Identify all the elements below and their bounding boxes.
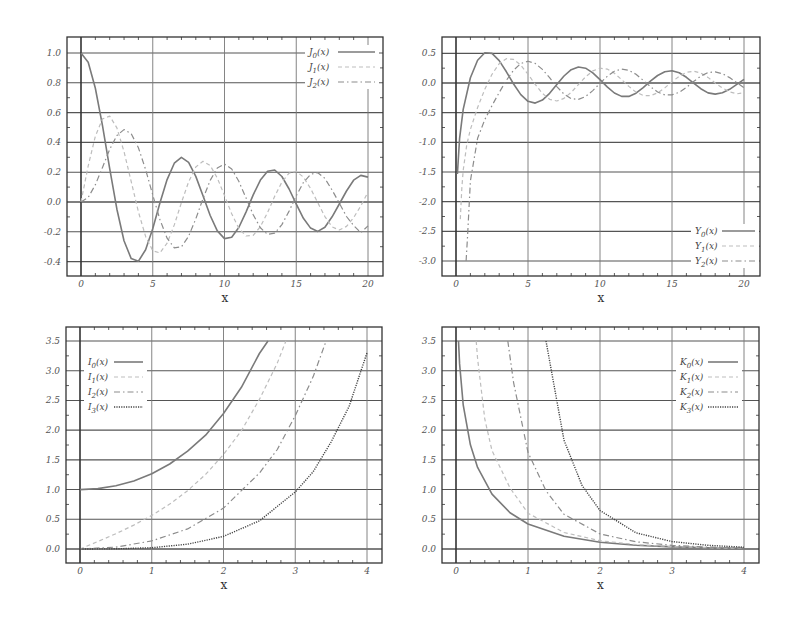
x-tick-label: 3 xyxy=(669,566,675,576)
x-axis-title: x xyxy=(221,578,228,592)
y-tick-label: 0.6 xyxy=(47,108,62,118)
x-tick-label: 4 xyxy=(363,566,370,576)
chart-bessel-j: -0.4-0.20.00.20.40.60.81.005101520J0(x)J… xyxy=(44,37,383,305)
y-tick-label: -1.5 xyxy=(419,167,437,177)
x-tick-label: 10 xyxy=(219,279,231,289)
y-tick-label: -2.5 xyxy=(419,226,437,236)
y-tick-label: 0.5 xyxy=(422,514,437,524)
x-tick-label: 15 xyxy=(666,279,678,289)
y-tick-label: 3.0 xyxy=(422,366,437,376)
y-tick-label: 2.5 xyxy=(45,395,61,405)
x-tick-label: 0 xyxy=(77,566,83,576)
y-tick-label: 0.4 xyxy=(47,137,62,147)
y-tick-label: -3.0 xyxy=(419,256,437,266)
y-tick-label: 0.0 xyxy=(422,78,437,88)
x-tick-label: 1 xyxy=(149,566,155,576)
y-tick-label: 0.0 xyxy=(46,544,61,554)
y-tick-label: 2.5 xyxy=(421,395,437,405)
x-tick-label: 3 xyxy=(292,566,298,576)
x-tick-label: 2 xyxy=(220,566,227,576)
x-tick-label: 10 xyxy=(594,279,606,289)
y-tick-label: 0.5 xyxy=(46,514,61,524)
chart-bessel-y: -3.0-2.5-2.0-1.5-1.0-0.50.00.505101520Y0… xyxy=(419,37,760,305)
x-tick-label: 0 xyxy=(453,566,459,576)
x-axis-title: x xyxy=(222,291,229,305)
y-tick-label: 1.0 xyxy=(47,48,62,58)
y-tick-label: -0.2 xyxy=(44,227,62,237)
x-axis-title: x xyxy=(597,578,604,592)
y-tick-label: 1.5 xyxy=(422,455,437,465)
chart-bessel-i: 0.00.51.01.52.02.53.03.501234I0(x)I1(x)I… xyxy=(45,327,382,592)
y-tick-label: 1.0 xyxy=(422,485,437,495)
bessel-figure: -0.4-0.20.00.20.40.60.81.005101520J0(x)J… xyxy=(0,0,795,619)
y-tick-label: -1.0 xyxy=(419,137,437,147)
y-tick-label: -2.0 xyxy=(419,197,437,207)
chart-bessel-k: 0.00.51.01.52.02.53.03.501234K0(x)K1(x)K… xyxy=(421,327,759,592)
y-tick-label: -0.4 xyxy=(44,257,62,267)
y-tick-label: -0.5 xyxy=(419,108,437,118)
x-tick-label: 2 xyxy=(596,566,603,576)
y-tick-label: 0.0 xyxy=(422,544,437,554)
x-tick-label: 15 xyxy=(291,279,303,289)
x-tick-label: 0 xyxy=(453,279,459,289)
y-tick-label: 2.0 xyxy=(421,425,437,435)
x-tick-label: 4 xyxy=(740,566,747,576)
y-tick-label: 3.5 xyxy=(46,336,61,346)
x-axis-title: x xyxy=(598,291,605,305)
series-line-y0 xyxy=(457,53,744,174)
y-tick-label: 3.0 xyxy=(46,366,61,376)
y-tick-label: 0.5 xyxy=(422,48,437,58)
x-tick-label: 5 xyxy=(150,279,156,289)
y-tick-label: 0.8 xyxy=(47,78,62,88)
y-tick-label: 3.5 xyxy=(422,336,437,346)
x-tick-label: 5 xyxy=(525,279,531,289)
x-tick-label: 20 xyxy=(737,279,750,289)
y-tick-label: 0.0 xyxy=(47,197,62,207)
y-tick-label: 1.5 xyxy=(46,455,61,465)
x-tick-label: 20 xyxy=(361,279,374,289)
y-tick-label: 1.0 xyxy=(46,485,61,495)
x-tick-label: 1 xyxy=(525,566,531,576)
y-tick-label: 0.2 xyxy=(47,167,62,177)
x-tick-label: 0 xyxy=(78,279,84,289)
y-tick-label: 2.0 xyxy=(45,425,61,435)
